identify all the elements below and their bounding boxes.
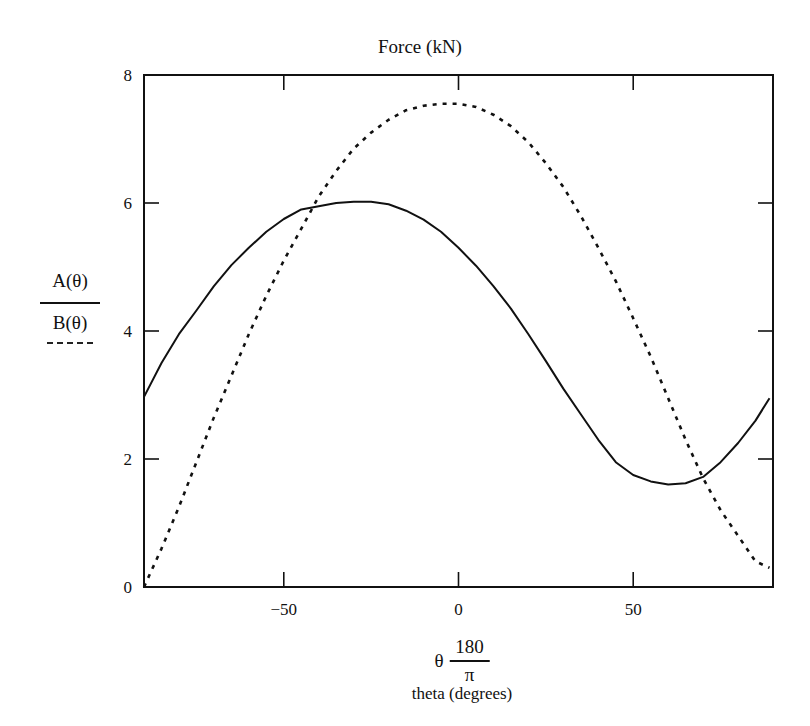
- legend-solid-line-icon: [40, 302, 100, 304]
- y-tick-label: 4: [124, 322, 133, 341]
- x-label-denominator: π: [465, 664, 475, 686]
- series-a-solid-line: [144, 202, 770, 485]
- x-tick-label: 0: [454, 600, 463, 619]
- x-tick-label: 50: [625, 600, 642, 619]
- x-axis-label: θ 180 π theta (degrees): [412, 636, 513, 704]
- x-label-fraction: 180 π: [450, 636, 490, 686]
- y-tick-label: 2: [124, 450, 133, 469]
- y-tick-label: 8: [124, 66, 133, 85]
- series-b-dashed-line: [144, 104, 770, 587]
- plot-frame: [144, 75, 773, 587]
- y-axis-legend: A(θ) B(θ): [40, 268, 100, 344]
- axis-ticks: −5005002468: [124, 66, 774, 619]
- data-series: [144, 104, 770, 587]
- legend-label-b: B(θ): [40, 310, 100, 336]
- x-label-numerator: 180: [455, 636, 484, 658]
- plot-border: [144, 75, 773, 587]
- legend-label-a: A(θ): [40, 268, 100, 294]
- x-label-theta: θ: [434, 650, 443, 672]
- y-tick-label: 6: [124, 194, 133, 213]
- y-tick-label: 0: [124, 578, 133, 597]
- x-tick-label: −50: [270, 600, 297, 619]
- legend-dashed-line-icon: [47, 342, 93, 344]
- fraction-bar: [450, 660, 490, 662]
- x-axis-subtitle: theta (degrees): [412, 684, 513, 704]
- chart-title: Force (kN): [360, 36, 480, 58]
- chart-plot-area: −5005002468: [0, 0, 810, 726]
